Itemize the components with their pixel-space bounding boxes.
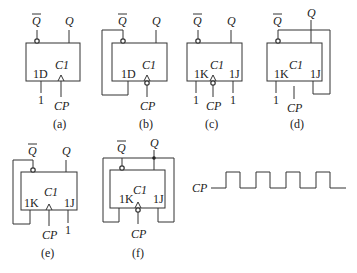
inversion-bubble (35, 39, 39, 43)
logic-one-label: 1 (273, 93, 279, 107)
j-input-label: 1J (229, 67, 240, 81)
k-input-label: 1K (24, 196, 39, 210)
logic-one-label: 1 (38, 93, 44, 107)
cp-label: CP (206, 99, 222, 113)
logic-one-label: 1 (230, 93, 236, 107)
qbar-label: Q (117, 141, 126, 155)
qbar-label: Q (273, 14, 282, 28)
clock-edge-marker (58, 75, 64, 81)
panel-a: Q Q 1D C1 1 CP (a) (26, 14, 80, 131)
j-input-label: 1J (153, 192, 164, 206)
d-input-label: 1D (33, 67, 48, 81)
cp-label: CP (140, 99, 156, 113)
feedback-wire (13, 160, 33, 224)
clock-label: C1 (44, 185, 58, 199)
clock-edge-marker (46, 204, 52, 210)
k-input-label: 1K (274, 67, 289, 81)
d-input-label: 1D (121, 67, 136, 81)
clock-inversion-bubble (211, 81, 215, 85)
logic-one-label: 1 (65, 223, 71, 237)
cp-label: CP (42, 228, 58, 242)
cp-waveform: CP (192, 172, 346, 195)
q-label: Q (62, 144, 71, 158)
clock-label: C1 (142, 58, 156, 72)
flip-flop-diagram: Q Q 1D C1 1 CP (a) Q Q 1D C1 CP (b) (0, 0, 357, 273)
caption-c: (c) (205, 117, 218, 131)
waveform-label: CP (192, 181, 208, 195)
j-input-label: 1J (64, 196, 75, 210)
q-label: Q (152, 14, 161, 28)
panel-d: Q Q 1K C1 1J 1 CP (d) (267, 6, 330, 131)
panel-e: Q Q 1K C1 1J 1 CP (e) (13, 144, 77, 260)
cp-label: CP (287, 101, 303, 115)
k-input-label: 1K (119, 192, 134, 206)
qbar-label: Q (32, 14, 41, 28)
clock-label: C1 (289, 58, 303, 72)
caption-f: (f) (132, 246, 144, 260)
q-label: Q (150, 136, 159, 150)
q-label: Q (65, 14, 74, 28)
j-input-label: 1J (310, 67, 321, 81)
clock-label: C1 (55, 58, 69, 72)
panel-c: Q Q 1K C1 1J 1 1 CP (c) (187, 14, 242, 131)
clock-inversion-bubble (136, 208, 140, 212)
qbar-label: Q (118, 14, 127, 28)
qbar-label: Q (193, 14, 202, 28)
cp-label: CP (131, 227, 147, 241)
panel-b: Q Q 1D C1 CP (b) (102, 14, 167, 131)
caption-a: (a) (53, 117, 66, 131)
caption-b: (b) (139, 117, 153, 131)
clock-label: C1 (133, 183, 147, 197)
k-input-label: 1K (194, 67, 209, 81)
feedback-wire-j (154, 158, 174, 222)
q-label: Q (307, 6, 316, 20)
cp-label: CP (54, 99, 70, 113)
q-label: Q (227, 14, 236, 28)
caption-d: (d) (290, 117, 304, 131)
feedback-wire-k (103, 158, 122, 222)
clock-label: C1 (210, 58, 224, 72)
qbar-label: Q (28, 144, 37, 158)
caption-e: (e) (41, 246, 54, 260)
panel-f: Q Q 1K C1 1J CP (f) (103, 136, 174, 260)
inversion-bubble (121, 39, 125, 43)
logic-one-label: 1 (193, 93, 199, 107)
clock-square-wave (211, 172, 346, 188)
clock-inversion-bubble (145, 81, 149, 85)
